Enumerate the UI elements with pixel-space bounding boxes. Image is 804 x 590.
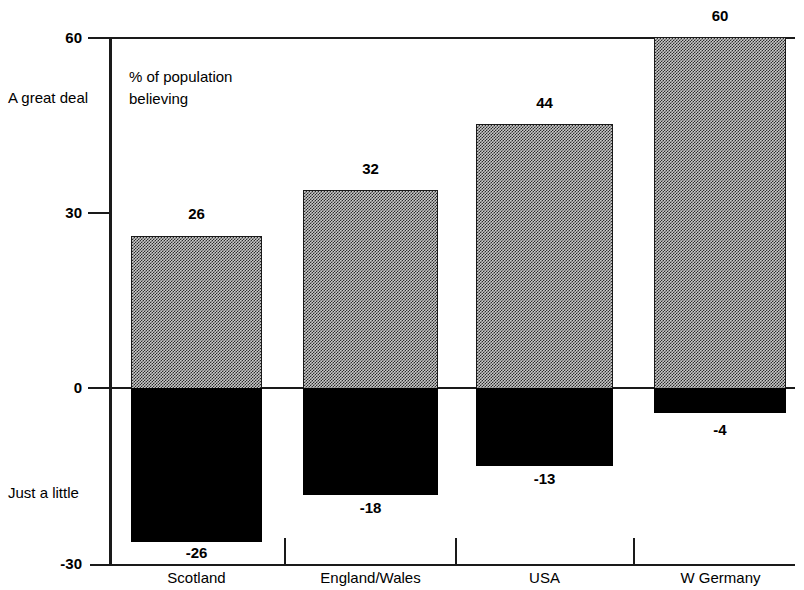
- value-label-positive-w-germany: 60: [654, 8, 786, 23]
- bar-negative-w-germany: [654, 388, 786, 413]
- x-separator-tick-2: [455, 538, 457, 565]
- y-tick-mark-0: [88, 387, 112, 389]
- value-label-negative-scotland: -26: [131, 545, 262, 560]
- category-label-england-wales: England/Wales: [295, 570, 446, 585]
- value-label-negative-england-wales: -18: [303, 500, 438, 515]
- value-label-positive-scotland: 26: [131, 206, 262, 221]
- bar-positive-scotland: [131, 236, 262, 389]
- value-label-positive-usa: 44: [476, 95, 613, 110]
- y-tick-label-minus-30: -30: [22, 556, 82, 571]
- bar-negative-england-wales: [303, 388, 438, 495]
- y-tick-label-30: 30: [28, 205, 82, 220]
- value-label-negative-usa: -13: [476, 471, 613, 486]
- x-axis-line: [90, 564, 795, 566]
- axis-pole-label-top: A great deal: [8, 90, 88, 105]
- bar-positive-england-wales: [303, 190, 438, 389]
- y-tick-label-0: 0: [28, 380, 82, 395]
- y-tick-mark-30: [88, 212, 112, 214]
- bar-positive-w-germany: [654, 37, 786, 389]
- plot-annotation: % of population believing: [129, 66, 232, 110]
- value-label-positive-england-wales: 32: [303, 161, 438, 176]
- category-label-usa: USA: [476, 570, 613, 585]
- category-label-w-germany: W Germany: [650, 570, 791, 585]
- chart-canvas: 60 30 0 -30 A great deal Just a little %…: [0, 0, 804, 590]
- y-tick-mark-60: [88, 37, 112, 39]
- y-tick-label-60: 60: [28, 30, 82, 45]
- axis-pole-label-bottom: Just a little: [8, 485, 79, 500]
- y-axis-line: [109, 37, 112, 566]
- value-label-negative-w-germany: -4: [654, 422, 786, 437]
- bar-negative-usa: [476, 388, 613, 466]
- category-label-scotland: Scotland: [126, 570, 267, 585]
- bar-positive-usa: [476, 124, 613, 389]
- x-separator-tick-1: [284, 538, 286, 565]
- x-separator-tick-3: [633, 538, 635, 565]
- bar-negative-scotland: [131, 388, 262, 542]
